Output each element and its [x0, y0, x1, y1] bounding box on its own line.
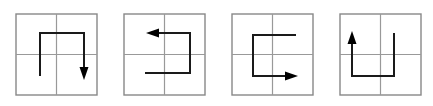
path-staple-down [40, 33, 89, 80]
panel-1-canvas [0, 0, 108, 106]
panel-2[interactable] [108, 0, 216, 106]
arrow-down-icon [80, 67, 89, 80]
arrow-right-icon [285, 72, 298, 81]
panel-3-canvas [216, 0, 324, 106]
panel-3[interactable] [216, 0, 324, 106]
panel-4[interactable] [324, 0, 432, 106]
panel-4-canvas [324, 0, 433, 106]
panel-2-canvas [108, 0, 216, 106]
grid-square-2 [124, 14, 205, 95]
path-c-shape-right [253, 35, 298, 81]
path-u-shape-up [348, 31, 395, 76]
arrow-left-icon [146, 29, 159, 38]
puzzle-strip [0, 0, 433, 106]
grid-square-3 [232, 14, 313, 95]
arrow-up-icon [348, 31, 357, 44]
panel-1[interactable] [0, 0, 108, 106]
path-s-shape-left [145, 29, 190, 74]
